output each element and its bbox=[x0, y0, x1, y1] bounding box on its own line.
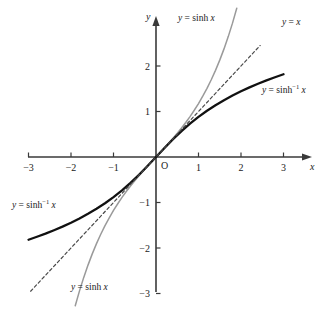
origin-label: O bbox=[161, 160, 168, 171]
x-axis-arrowhead bbox=[302, 153, 312, 160]
sinh-and-arcsinh-graph-figure: −3−2−112321−1−2−3O xy y = sinh xy = xy =… bbox=[0, 0, 323, 314]
y-tick-label: 1 bbox=[145, 106, 150, 117]
y-axis-arrowhead bbox=[152, 16, 159, 26]
y-tick-label: 2 bbox=[145, 61, 150, 72]
annotation-sinh-top: y = sinh x bbox=[178, 14, 215, 24]
x-tick-label: 3 bbox=[281, 162, 286, 173]
tick-labels-group: −3−2−112321−1−2−3O bbox=[23, 61, 286, 300]
y-tick-label: −2 bbox=[139, 243, 150, 254]
annotation-asinh-right: y = sinh−1 x bbox=[262, 86, 306, 96]
x-tick-label: 2 bbox=[239, 162, 244, 173]
annotation-asinh-left: y = sinh−1 x bbox=[12, 201, 56, 211]
annotation-identity: y = x bbox=[282, 18, 301, 28]
coordinate-plot: −3−2−112321−1−2−3O xy bbox=[0, 0, 323, 314]
x-axis-name: x bbox=[309, 161, 315, 172]
annotation-sinh-bottom: y = sinh x bbox=[71, 283, 108, 293]
y-tick-label: −3 bbox=[139, 288, 150, 299]
x-tick-label: −3 bbox=[23, 162, 34, 173]
x-tick-label: 1 bbox=[196, 162, 201, 173]
x-tick-label: −2 bbox=[66, 162, 77, 173]
y-axis-name: y bbox=[145, 11, 151, 22]
y-tick-label: −1 bbox=[139, 197, 150, 208]
x-tick-label: −1 bbox=[108, 162, 119, 173]
